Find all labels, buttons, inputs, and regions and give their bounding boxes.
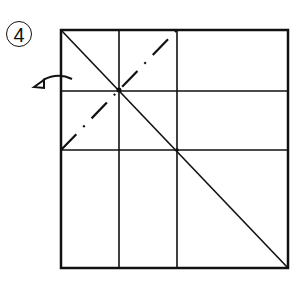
fold-behind-arrow-icon	[43, 76, 72, 80]
arrow-head-icon	[34, 80, 44, 88]
intersection-dot	[117, 88, 122, 93]
fold-diagram	[0, 0, 305, 306]
diagonal-crease	[61, 30, 288, 268]
intersection-dot	[175, 148, 179, 152]
